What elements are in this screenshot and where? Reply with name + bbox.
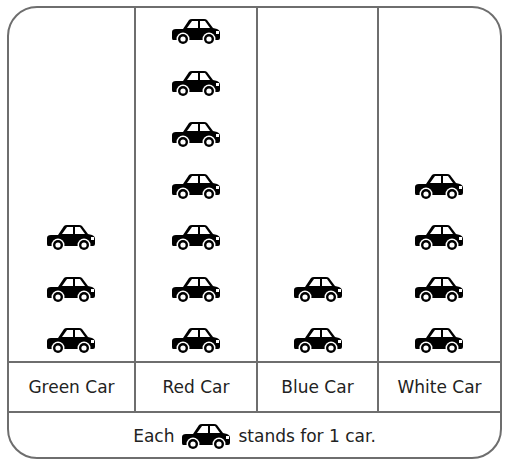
column-divider	[134, 8, 136, 412]
column-divider	[377, 8, 379, 412]
car-icon	[180, 421, 232, 451]
key-row: Each stands for 1 car.	[9, 413, 500, 459]
car-icon	[170, 222, 222, 252]
category-label-white: White Car	[379, 363, 500, 411]
car-icon	[413, 325, 465, 355]
car-icon	[170, 68, 222, 98]
car-icon	[45, 222, 97, 252]
car-icon	[170, 16, 222, 46]
category-label-blue: Blue Car	[258, 363, 377, 411]
car-icon	[413, 222, 465, 252]
car-icon	[170, 325, 222, 355]
pictograph-frame: Green Car Red Car Blue Car White Car Eac…	[7, 6, 502, 459]
car-icon	[45, 274, 97, 304]
category-label-green: Green Car	[9, 363, 134, 411]
car-icon	[413, 171, 465, 201]
car-icon	[292, 274, 344, 304]
car-icon	[170, 171, 222, 201]
key-suffix: stands for 1 car.	[238, 426, 375, 446]
column-divider	[256, 8, 258, 412]
car-icon	[170, 119, 222, 149]
car-icon	[170, 274, 222, 304]
category-label-red: Red Car	[136, 363, 256, 411]
key-prefix: Each	[133, 426, 174, 446]
car-icon	[45, 325, 97, 355]
car-icon	[413, 274, 465, 304]
car-icon	[292, 325, 344, 355]
